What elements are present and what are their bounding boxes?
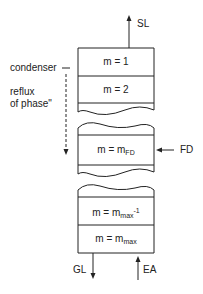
stage-1-label: m = 1 (78, 56, 154, 68)
reflux-label-line1: reflux (10, 86, 34, 98)
stage-2-label: m = 2 (78, 84, 154, 96)
stage-max1-main: m = m (92, 207, 120, 218)
stage-fd-label: m = mFD (78, 144, 154, 159)
gl-arrowhead-icon (91, 273, 96, 279)
reflux-label-line2: of phase" (10, 98, 52, 110)
fd-arrowhead-icon (156, 148, 162, 153)
stage-max-main: m = m (95, 233, 123, 244)
stage-max-sub: max (123, 238, 136, 245)
stage-max1-sup: -1 (134, 207, 140, 214)
ea-arrowhead-icon (136, 256, 141, 262)
stage-max1-sub: max (120, 212, 133, 219)
condenser-label: condenser (10, 62, 57, 74)
stage-fd-main: m = m (97, 144, 125, 155)
ea-label: EA (143, 264, 156, 276)
sl-label: SL (137, 18, 149, 30)
stage-max-minus-1-label: m = mmax-1 (78, 205, 154, 222)
sl-arrowhead-icon (127, 15, 132, 21)
fd-label: FD (180, 144, 193, 156)
gl-label: GL (73, 264, 86, 276)
stage-fd-sub: FD (125, 149, 134, 156)
stage-max-label: m = mmax (78, 233, 154, 248)
reflux-arrowhead-icon (64, 149, 69, 155)
